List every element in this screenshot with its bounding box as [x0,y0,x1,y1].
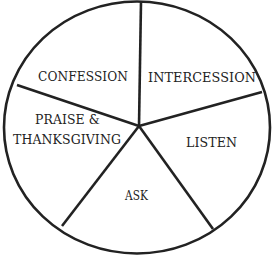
segment-label-praise: PRAISE & [35,111,100,127]
segment-label-listen: LISTEN [186,134,237,150]
segment-label-ask: ASK [124,187,148,203]
segment-label-intercession: INTERCESSION [148,69,256,85]
segment-label-thanksgiving: THANKSGIVING [13,131,121,147]
prayer-wheel-diagram: CONFESSION INTERCESSION LISTEN ASK PRAIS… [0,0,272,259]
segment-label-confession: CONFESSION [38,68,128,84]
